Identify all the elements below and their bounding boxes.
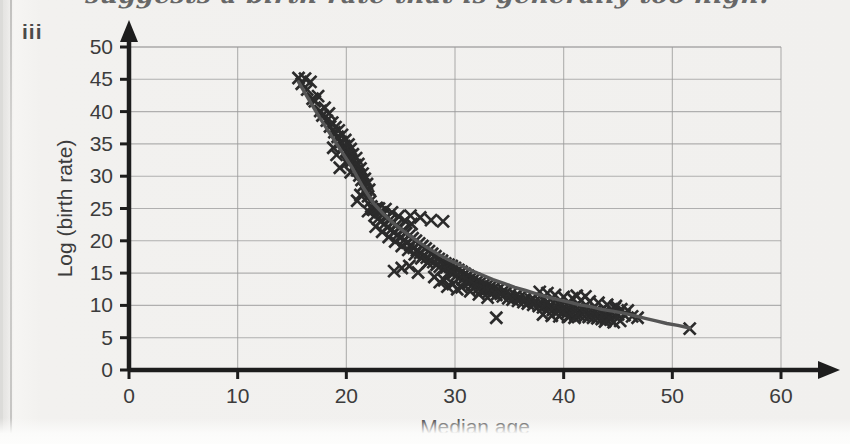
x-axis-tick-label: 30 xyxy=(443,384,466,407)
x-axis-tick-label: 0 xyxy=(123,384,135,407)
data-point-marker xyxy=(437,215,449,227)
axis-ticks-group xyxy=(120,47,781,379)
x-axis-tick-label: 20 xyxy=(335,384,358,407)
y-axis-tick-label: 25 xyxy=(90,197,113,220)
y-axis-title: Log (birth rate) xyxy=(53,140,76,278)
y-axis-tick-label: 35 xyxy=(90,132,113,155)
x-axis-tick-label: 60 xyxy=(769,384,792,407)
y-axis-tick-label: 20 xyxy=(90,229,113,252)
data-point-marker xyxy=(425,214,437,226)
y-axis-tick-label: 5 xyxy=(101,326,113,349)
scatter-chart-figure: 051015202530354045500102030405060Median … xyxy=(0,0,850,444)
page-bottom-fade xyxy=(0,418,850,444)
y-axis-tick-label: 15 xyxy=(90,261,113,284)
data-point-marker xyxy=(412,266,424,278)
data-point-marker xyxy=(579,290,591,302)
data-point-marker xyxy=(404,210,416,222)
axis-labels-group: 051015202530354045500102030405060Median … xyxy=(53,35,793,438)
chart-svg: 051015202530354045500102030405060Median … xyxy=(0,0,850,444)
data-point-marker xyxy=(490,312,502,324)
grid-lines-group xyxy=(129,47,781,370)
y-axis-tick-label: 0 xyxy=(101,358,113,381)
x-axis-tick-label: 10 xyxy=(226,384,249,407)
y-axis-tick-label: 30 xyxy=(90,164,113,187)
axes-group xyxy=(120,20,840,379)
x-axis-tick-label: 40 xyxy=(552,384,575,407)
y-axis-tick-label: 45 xyxy=(90,67,113,90)
y-axis-tick-label: 40 xyxy=(90,100,113,123)
x-axis-arrowhead xyxy=(818,361,840,379)
y-axis-tick-label: 50 xyxy=(90,35,113,58)
x-axis-tick-label: 50 xyxy=(661,384,684,407)
y-axis-arrowhead xyxy=(120,20,138,42)
y-axis-tick-label: 10 xyxy=(90,293,113,316)
